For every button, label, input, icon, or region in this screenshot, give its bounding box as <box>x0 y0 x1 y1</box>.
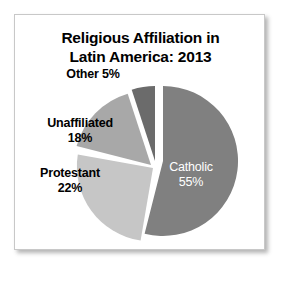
pie-label-protestant: Protestant 22% <box>20 166 120 195</box>
pie-chart: Other 5% Unaffiliated 18% Protestant 22%… <box>15 15 266 251</box>
pie-label-protestant-name: Protestant <box>20 166 120 181</box>
pie-label-unaffiliated-name: Unaffiliated <box>30 116 130 131</box>
pie-label-other-text: Other 5% <box>66 67 119 81</box>
pie-label-unaffiliated: Unaffiliated 18% <box>30 116 130 145</box>
pie-label-unaffiliated-value: 18% <box>30 131 130 146</box>
chart-card: Religious Affiliation in Latin America: … <box>14 14 265 250</box>
pie-label-catholic-value: 55% <box>155 175 227 190</box>
pie-label-protestant-value: 22% <box>20 181 120 196</box>
pie-label-catholic-name: Catholic <box>155 160 227 175</box>
pie-label-other: Other 5% <box>43 67 143 82</box>
pie-label-catholic: Catholic 55% <box>155 160 227 190</box>
